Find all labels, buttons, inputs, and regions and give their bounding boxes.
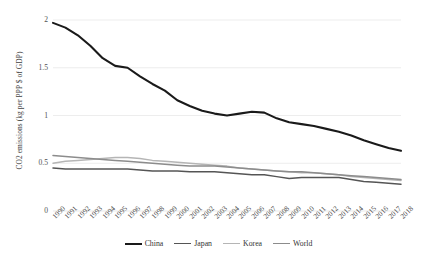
y-tick-label: 1.5 <box>26 64 48 72</box>
legend-label: China <box>145 240 164 248</box>
x-tick-label: 2018 <box>399 205 414 220</box>
legend-item-japan: Japan <box>174 240 212 248</box>
plot-area <box>53 20 401 211</box>
y-axis-tick-labels: 00.511.52 <box>22 0 48 261</box>
legend-label: World <box>293 240 312 248</box>
legend-label: Japan <box>194 240 212 248</box>
legend-swatch <box>273 243 290 244</box>
chart-legend: ChinaJapanKoreaWorld <box>0 240 437 248</box>
y-tick-label: 0.5 <box>26 159 48 167</box>
legend-item-world: World <box>273 240 312 248</box>
legend-swatch <box>125 243 142 245</box>
legend-label: Korea <box>243 240 262 248</box>
y-tick-label: 0 <box>26 207 48 215</box>
y-tick-label: 1 <box>26 112 48 120</box>
legend-swatch <box>174 243 191 244</box>
plot-svg <box>53 20 401 211</box>
series-line-china <box>53 23 401 151</box>
series-lines <box>53 23 401 184</box>
y-tick-label: 2 <box>26 16 48 24</box>
co2-emissions-line-chart: CO2 emissions (kg per PPP $ of GDP) 00.5… <box>0 0 437 261</box>
legend-item-china: China <box>125 240 164 248</box>
legend-item-korea: Korea <box>223 240 262 248</box>
legend-swatch <box>223 243 240 244</box>
series-line-world <box>53 156 401 180</box>
